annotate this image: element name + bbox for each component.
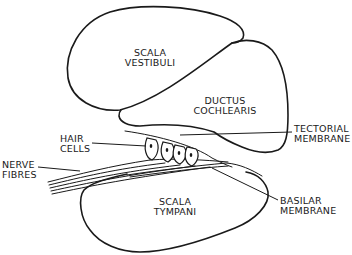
- nerve-fibres-bundle: [48, 160, 210, 194]
- basilar-membrane-leader: [212, 168, 278, 200]
- hair-cells-label: HAIR CELLS: [60, 134, 90, 154]
- tectorial-membrane-label: TECTORIAL MEMBRANE: [294, 124, 350, 144]
- ductus-cochlearis-label: DUCTUS COCHLEARIS: [180, 96, 270, 116]
- nerve-fibres-label: NERVE FIBRES: [2, 160, 37, 180]
- basilar-membrane-label: BASILAR MEMBRANE: [280, 196, 336, 216]
- hair-cells-group: [145, 138, 198, 166]
- scala-tympani-label: SCALA TYMPANI: [140, 197, 210, 217]
- scala-vestibuli-label: SCALA VESTIBULI: [110, 48, 190, 68]
- tectorial-membrane-leader: [180, 132, 292, 135]
- nerve-fibres-leader: [38, 167, 80, 171]
- hair-cells-leader: [92, 143, 146, 146]
